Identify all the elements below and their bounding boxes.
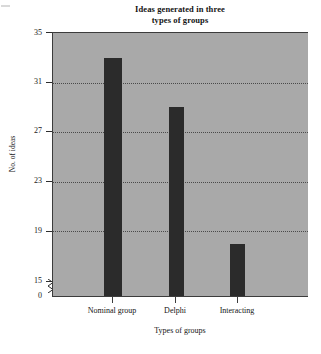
gridline-31 <box>53 83 308 84</box>
chart-title-line-2: types of groups <box>60 15 300 26</box>
chart-figure: Ideas generated in three types of groups… <box>0 0 321 354</box>
y-tick-label-31: 31 <box>2 78 42 86</box>
y-tick-label-35: 35 <box>2 29 42 37</box>
bar-delphi <box>169 107 184 296</box>
x-axis-title: Types of groups <box>52 326 308 335</box>
y-tick-label-0: 0 <box>2 292 42 300</box>
bar-interacting <box>230 244 245 296</box>
x-axis-baseline <box>52 296 308 297</box>
y-tick-label-15: 15 <box>2 277 42 285</box>
y-tick-label-27: 27 <box>2 127 42 135</box>
y-tick-label-19: 19 <box>2 227 42 235</box>
x-tick-mark-delphi <box>175 296 176 303</box>
plot-inner <box>53 33 308 296</box>
plot-area <box>52 32 308 296</box>
x-tick-mark-nominal-group <box>112 296 113 303</box>
y-tick-label-23: 23 <box>2 177 42 185</box>
x-tick-label-interacting: Interacting <box>189 306 285 315</box>
x-tick-mark-interacting <box>237 296 238 303</box>
chart-title-line-1: Ideas generated in three <box>60 4 300 15</box>
chart-title: Ideas generated in three types of groups <box>60 4 300 25</box>
bar-nominal-group <box>104 58 122 296</box>
scan-artifact <box>1 5 10 7</box>
